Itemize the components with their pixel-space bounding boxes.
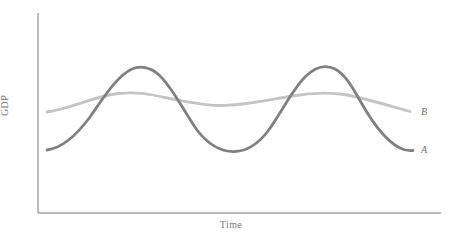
series-label-b: B — [421, 106, 427, 117]
gdp-business-cycle-chart: GDP Time B A — [0, 0, 462, 238]
series-line-a — [47, 67, 413, 152]
y-axis-label: GDP — [0, 102, 32, 116]
chart-plot-area — [0, 0, 462, 238]
series-label-a: A — [421, 144, 427, 155]
x-axis-label: Time — [0, 219, 462, 230]
